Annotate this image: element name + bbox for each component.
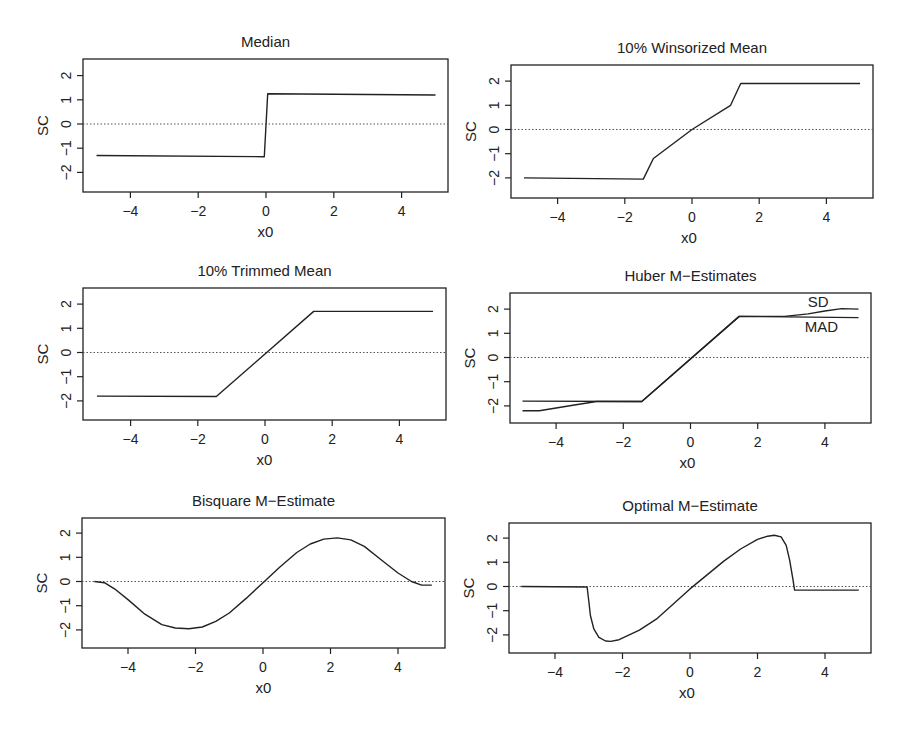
x-tick-label: 2 [755, 209, 763, 225]
y-tick-label: 2 [57, 529, 73, 537]
panel-title: 10% Winsorized Mean [617, 39, 767, 56]
series-line-sc [97, 94, 436, 157]
x-tick-label: −2 [190, 431, 206, 447]
panel-title: Median [241, 33, 290, 50]
x-tick-label: 2 [754, 434, 762, 450]
y-axis-label: SC [33, 572, 50, 593]
panel-median-plot: Median−4−2024−2−1012x0SC [34, 33, 448, 240]
annotation-mad: MAD [805, 318, 839, 335]
y-tick-label: −2 [484, 627, 500, 643]
y-tick-label: 0 [58, 120, 74, 128]
y-tick-label: −2 [57, 622, 73, 638]
y-tick-label: 0 [485, 353, 501, 361]
x-tick-label: 2 [327, 659, 335, 675]
x-tick-label: −2 [190, 203, 206, 219]
y-tick-label: 1 [58, 324, 74, 332]
y-axis-label: SC [34, 343, 51, 364]
series-line-sc [97, 311, 433, 396]
x-tick-label: −2 [188, 659, 204, 675]
x-tick-label: 4 [823, 209, 831, 225]
x-tick-label: 0 [259, 659, 267, 675]
annotation-sd: SD [808, 293, 829, 310]
x-axis-label: x0 [257, 451, 273, 468]
x-tick-label: 2 [330, 203, 338, 219]
x-tick-label: −4 [550, 209, 566, 225]
y-tick-label: −2 [58, 164, 74, 180]
y-tick-label: 2 [58, 71, 74, 79]
y-tick-label: −1 [486, 146, 502, 162]
x-axis-label: x0 [258, 223, 274, 240]
panel-title: Optimal M−Estimate [622, 497, 757, 514]
y-tick-label: −1 [58, 140, 74, 156]
x-tick-label: −2 [615, 434, 631, 450]
y-tick-label: 1 [486, 101, 502, 109]
y-tick-label: 2 [58, 300, 74, 308]
x-tick-label: −4 [548, 434, 564, 450]
y-tick-label: −2 [486, 170, 502, 186]
x-tick-label: 0 [687, 434, 695, 450]
series-line-sc [521, 535, 859, 641]
panel-huber-m-estimates-plot: Huber M−Estimates−4−2024−2−1012x0SCSDMAD [461, 267, 871, 471]
panel-optimal-m-estimate-plot: Optimal M−Estimate−4−2024−2−1012x0SC [460, 497, 871, 701]
y-tick-label: 0 [57, 577, 73, 585]
y-tick-label: −1 [58, 369, 74, 385]
x-tick-label: 4 [394, 659, 402, 675]
x-tick-label: −2 [617, 209, 633, 225]
y-axis-label: SC [462, 121, 479, 142]
y-tick-label: −1 [484, 603, 500, 619]
panel-bisquare-m-estimate-plot: Bisquare M−Estimate−4−2024−2−1012x0SC [33, 492, 445, 696]
y-tick-label: 2 [486, 77, 502, 85]
y-tick-label: 1 [58, 96, 74, 104]
x-tick-label: −2 [615, 664, 631, 680]
y-tick-label: −1 [485, 374, 501, 390]
series-line-sc [524, 84, 860, 180]
x-tick-label: −4 [120, 659, 136, 675]
x-tick-label: −4 [122, 203, 138, 219]
panel-title: 10% Trimmed Mean [197, 262, 331, 279]
y-tick-label: 0 [58, 348, 74, 356]
x-tick-label: 2 [754, 664, 762, 680]
panel-title: Bisquare M−Estimate [192, 492, 335, 509]
y-tick-label: −1 [57, 598, 73, 614]
y-tick-label: −2 [485, 398, 501, 414]
x-tick-label: 4 [821, 434, 829, 450]
x-tick-label: 4 [821, 664, 829, 680]
panel-title: Huber M−Estimates [624, 267, 756, 284]
x-tick-label: 2 [328, 431, 336, 447]
y-axis-label: SC [34, 115, 51, 136]
x-tick-label: −4 [123, 431, 139, 447]
x-tick-label: 0 [686, 664, 694, 680]
figure-canvas: Median−4−2024−2−1012x0SC10% Winsorized M… [0, 0, 900, 737]
y-tick-label: 0 [484, 582, 500, 590]
x-tick-label: −4 [547, 664, 563, 680]
y-tick-label: 2 [484, 534, 500, 542]
y-tick-label: −2 [58, 393, 74, 409]
x-tick-label: 4 [398, 203, 406, 219]
series-line-sc [94, 538, 432, 629]
x-axis-label: x0 [679, 684, 695, 701]
y-axis-label: SC [461, 347, 478, 368]
x-tick-label: 0 [261, 431, 269, 447]
y-tick-label: 0 [486, 125, 502, 133]
y-tick-label: 1 [484, 558, 500, 566]
panel-winsorized-mean-plot: 10% Winsorized Mean−4−2024−2−1012x0SC [462, 39, 873, 246]
y-axis-label: SC [460, 577, 477, 598]
x-tick-label: 0 [688, 209, 696, 225]
x-axis-label: x0 [681, 229, 697, 246]
y-tick-label: 1 [57, 553, 73, 561]
x-axis-label: x0 [256, 679, 272, 696]
x-axis-label: x0 [680, 454, 696, 471]
y-tick-label: 1 [485, 329, 501, 337]
y-tick-label: 2 [485, 305, 501, 313]
panel-trimmed-mean-plot: 10% Trimmed Mean−4−2024−2−1012x0SC [34, 262, 446, 468]
x-tick-label: 4 [396, 431, 404, 447]
x-tick-label: 0 [262, 203, 270, 219]
